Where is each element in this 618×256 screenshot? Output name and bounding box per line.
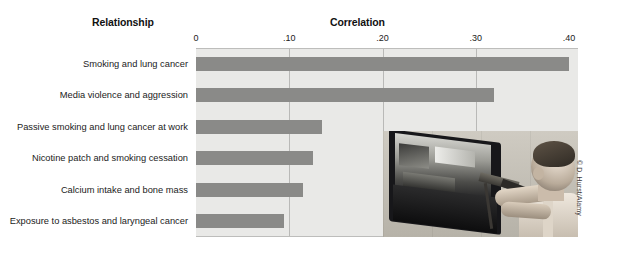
photo-child-hair (533, 141, 575, 167)
x-axis-tick-label-3: .30 (469, 33, 482, 43)
row-label-3: Nicotine patch and smoking cessation (32, 153, 188, 163)
chart-row: Media violence and aggression (0, 80, 618, 112)
row-label-5: Exposure to asbestos and laryngeal cance… (10, 216, 188, 226)
row-label-2: Passive smoking and lung cancer at work (17, 122, 188, 132)
row-label-0: Smoking and lung cancer (83, 59, 188, 69)
photo-child-ear (533, 167, 544, 180)
bar-5 (196, 214, 284, 228)
bar-0 (196, 57, 569, 71)
bar-3 (196, 151, 313, 165)
photo-credit: © D. Hurst/Alamy (576, 160, 583, 216)
bar-2 (196, 120, 322, 134)
child-playing-light-gun-video-game-photo (383, 131, 578, 237)
bar-1 (196, 88, 494, 102)
x-axis-tick-label-1: .10 (283, 33, 296, 43)
x-axis-tick-label-4: .40 (563, 33, 576, 43)
row-label-4: Calcium intake and bone mass (61, 185, 188, 195)
column-header-relationship: Relationship (92, 16, 154, 28)
photo-screen-scene-left (399, 143, 429, 169)
row-label-1: Media violence and aggression (60, 90, 188, 100)
x-axis-tick-label-2: .20 (376, 33, 389, 43)
chart-row: Smoking and lung cancer (0, 48, 618, 80)
x-axis: 0.10.20.30.40 (196, 33, 578, 47)
correlation-bar-chart-figure: Relationship Correlation 0.10.20.30.40 S… (0, 0, 618, 256)
bar-4 (196, 183, 303, 197)
column-header-correlation: Correlation (330, 16, 385, 28)
x-axis-tick-label-0: 0 (193, 33, 198, 43)
